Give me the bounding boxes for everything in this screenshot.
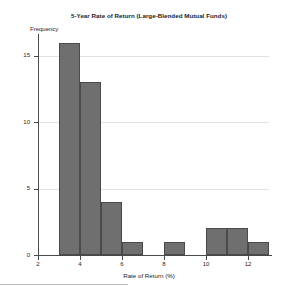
x-axis-line [36, 255, 272, 256]
x-tick-label-text: 2 [28, 261, 48, 267]
y-tick-label-text: 5 [6, 185, 30, 191]
histogram-bar [164, 242, 185, 255]
y-axis-title: Frequency [30, 26, 58, 32]
y-tick-label-text: 0 [6, 252, 30, 258]
y-tick-5 [34, 189, 38, 190]
y-tick-label: 10 [4, 119, 30, 127]
y-axis-line [38, 34, 39, 256]
x-tick-label-text: 8 [154, 261, 174, 267]
x-tick-4 [80, 256, 81, 260]
x-tick-12 [248, 256, 249, 260]
plot-area [38, 36, 269, 255]
histogram-bar [248, 242, 269, 255]
y-tick-10 [34, 122, 38, 123]
x-tick-6 [122, 256, 123, 260]
x-tick-label: 2 [28, 261, 48, 270]
x-tick-label: 10 [196, 261, 216, 270]
x-tick-2 [38, 256, 39, 260]
histogram-bar [122, 242, 143, 255]
x-tick-label-text: 10 [196, 261, 216, 267]
histogram-figure: 5-Year Rate of Return (Large-Blended Mut… [0, 0, 298, 292]
x-tick-label: 8 [154, 261, 174, 270]
y-tick-15 [34, 56, 38, 57]
histogram-bar [206, 228, 227, 255]
x-tick-label-text: 4 [70, 261, 90, 267]
histogram-bar [227, 228, 248, 255]
chart-title: 5-Year Rate of Return (Large-Blended Mut… [0, 12, 298, 19]
x-tick-label: 6 [112, 261, 132, 270]
y-tick-label: 5 [4, 185, 30, 193]
x-axis-title: Rate of Return (%) [0, 272, 298, 279]
y-tick-label: 15 [4, 52, 30, 60]
histogram-bar [80, 82, 101, 255]
x-tick-label-text: 6 [112, 261, 132, 267]
x-tick-label-text: 12 [238, 261, 258, 267]
bottom-divider [0, 284, 128, 285]
y-tick-label-text: 10 [6, 119, 30, 125]
histogram-bar [101, 202, 122, 255]
y-tick-label: 0 [4, 252, 30, 260]
histogram-bar [59, 43, 80, 255]
x-tick-label: 4 [70, 261, 90, 270]
x-tick-label: 12 [238, 261, 258, 270]
y-tick-label-text: 15 [6, 52, 30, 58]
x-tick-10 [206, 256, 207, 260]
x-tick-8 [164, 256, 165, 260]
